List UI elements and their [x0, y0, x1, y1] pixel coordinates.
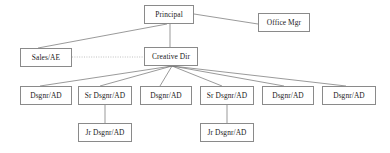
connector-creative_dir-to-sr_dsgnr_1	[100, 66, 172, 86]
connector-creative_dir-to-dsgnr_1	[40, 66, 172, 86]
node-jr_dsgnr_1[interactable]: Jr Dsgnr/AD	[78, 123, 132, 142]
node-dsgnr_1[interactable]: Dsgnr/AD	[20, 86, 72, 105]
node-label: Jr Dsgnr/AD	[85, 129, 124, 136]
node-label: Principal	[155, 11, 183, 18]
connector-lines	[0, 0, 390, 153]
org-chart: PrincipalOffice MgrSales/AECreative DirD…	[0, 0, 390, 153]
node-jr_dsgnr_2[interactable]: Jr Dsgnr/AD	[200, 123, 254, 142]
node-sr_dsgnr_2[interactable]: Sr Dsgnr/AD	[200, 86, 254, 105]
node-sr_dsgnr_1[interactable]: Sr Dsgnr/AD	[78, 86, 132, 105]
node-label: Sales/AE	[32, 54, 60, 61]
connector-creative_dir-to-dsgnr_2	[160, 66, 172, 86]
node-label: Creative Dir	[152, 53, 190, 60]
node-label: Dsgnr/AD	[272, 92, 304, 99]
node-office_mgr[interactable]: Office Mgr	[258, 13, 310, 32]
connector-principal-to-office_mgr	[194, 14, 258, 24]
node-label: Sr Dsgnr/AD	[207, 92, 247, 99]
node-label: Sr Dsgnr/AD	[85, 92, 125, 99]
connector-creative_dir-to-sr_dsgnr_2	[172, 66, 222, 86]
node-label: Jr Dsgnr/AD	[207, 129, 246, 136]
connector-principal-to-sales_ae	[38, 24, 167, 48]
node-label: Dsgnr/AD	[150, 92, 182, 99]
connector-creative_dir-to-dsgnr_4	[172, 66, 346, 86]
node-sales_ae[interactable]: Sales/AE	[20, 48, 72, 67]
node-creative_dir[interactable]: Creative Dir	[144, 47, 198, 66]
node-label: Dsgnr/AD	[333, 92, 365, 99]
node-label: Office Mgr	[267, 19, 301, 26]
node-dsgnr_2[interactable]: Dsgnr/AD	[140, 86, 192, 105]
node-dsgnr_3[interactable]: Dsgnr/AD	[262, 86, 314, 105]
node-label: Dsgnr/AD	[30, 92, 62, 99]
connector-creative_dir-to-dsgnr_3	[172, 66, 284, 86]
node-dsgnr_4[interactable]: Dsgnr/AD	[322, 86, 376, 105]
node-principal[interactable]: Principal	[144, 5, 194, 24]
